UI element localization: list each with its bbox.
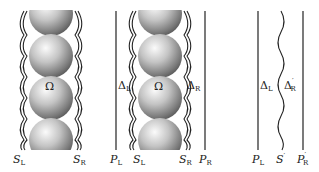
region-omega-label: Ω — [45, 80, 54, 93]
diagram-canvas: Ω SL SR Ω ΔL ΔR PL SL — [0, 0, 319, 172]
gap-label-delta-L: ΔL — [118, 79, 131, 93]
label-SR: SR — [73, 153, 87, 167]
label-PR-prime: P′R — [296, 151, 309, 167]
sphere — [29, 0, 73, 36]
gap-label-delta-R: ΔR — [187, 79, 201, 93]
region-omega-label: Ω — [154, 80, 163, 93]
label-PL: PL — [109, 153, 122, 167]
label-S-prime: S′ — [276, 152, 286, 166]
label-PR: PR — [198, 153, 212, 167]
sphere — [138, 0, 182, 36]
label-PL: PL — [251, 153, 264, 167]
label-SL: SL — [133, 153, 146, 167]
sphere — [29, 118, 73, 162]
left-surface-SL — [23, 11, 27, 150]
panel-3: ΔL Δ′R PL S′ P′R — [251, 11, 309, 167]
gap-label-delta-L: ΔL — [260, 79, 273, 93]
panel-1: Ω SL SR — [13, 0, 87, 167]
right-surface-SR — [75, 11, 79, 150]
panel-2: Ω ΔL ΔR PL SL SR PR — [109, 0, 212, 167]
gap-label-delta-R-prime: Δ′R — [284, 77, 297, 93]
sphere — [138, 118, 182, 162]
left-surface-SL — [132, 11, 136, 150]
label-SL: SL — [13, 153, 26, 167]
label-SR: SR — [179, 153, 193, 167]
sphere — [29, 34, 73, 78]
sphere — [138, 34, 182, 78]
